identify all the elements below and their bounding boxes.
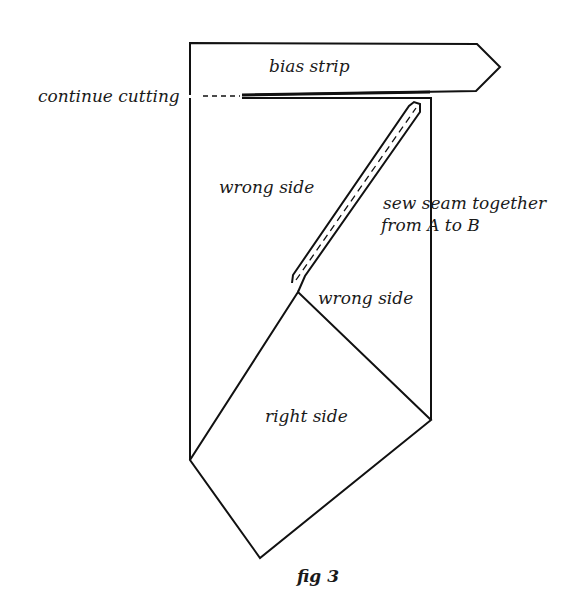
label-wrong-side-fold: wrong side — [318, 288, 413, 308]
fabric-top-edge — [242, 98, 431, 420]
label-wrong-side-left: wrong side — [219, 177, 314, 197]
label-right-side: right side — [265, 406, 348, 426]
label-continue-cutting: continue cutting — [38, 86, 180, 106]
cut-edge-line — [242, 92, 430, 95]
label-sew-seam-line1: sew seam together — [383, 193, 546, 213]
figure-caption: fig 3 — [297, 566, 339, 586]
label-sew-seam-line2: from A to B — [381, 215, 480, 235]
label-bias-strip: bias strip — [269, 56, 350, 76]
